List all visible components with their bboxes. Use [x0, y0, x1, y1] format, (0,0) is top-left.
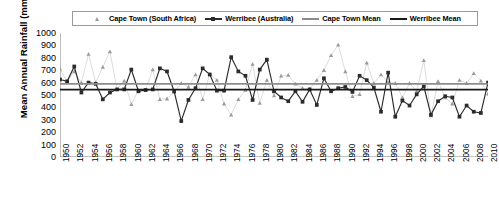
legend-label-werribee: Werribee (Australia) — [225, 15, 293, 22]
x-tick-label: 1978 — [263, 144, 271, 162]
x-tick-label: 1970 — [206, 144, 214, 162]
y-tick-label: 800 — [22, 53, 56, 62]
x-tick-label: 1980 — [277, 144, 285, 162]
y-tick-label: 600 — [22, 78, 56, 87]
square-marker-icon — [205, 15, 222, 23]
x-tick-label: 1994 — [377, 144, 385, 162]
y-tick-label: 500 — [22, 91, 56, 100]
line-swatch-icon — [302, 15, 319, 23]
x-tick-label: 1982 — [291, 144, 299, 162]
chart-legend: Cape Town (South Africa) Werribee (Austr… — [72, 11, 478, 26]
x-tick-label: 1974 — [234, 144, 242, 162]
x-tick-label: 1986 — [320, 144, 328, 162]
x-tick-label: 1998 — [406, 144, 414, 162]
legend-label-cape-town: Cape Town (South Africa) — [109, 15, 196, 22]
y-tick-label: 1000 — [22, 29, 56, 38]
x-axis-tick-labels: 1950195219541956195819601962196419661968… — [60, 160, 488, 202]
x-tick-label: 2008 — [477, 144, 485, 162]
x-tick-label: 1962 — [149, 144, 157, 162]
legend-label-cape-town-mean: Cape Town Mean — [322, 15, 380, 22]
x-tick-label: 1956 — [106, 144, 114, 162]
x-tick-label: 1950 — [63, 144, 71, 162]
x-tick-label: 2010 — [491, 144, 499, 162]
x-tick-label: 1996 — [391, 144, 399, 162]
y-axis-tick-labels: 10009008007006005004003002001000 — [22, 0, 56, 202]
y-tick-label: 0 — [22, 153, 56, 162]
x-tick-label: 1972 — [220, 144, 228, 162]
x-tick-label: 1954 — [92, 144, 100, 162]
x-tick-label: 1992 — [363, 144, 371, 162]
x-tick-label: 1988 — [334, 144, 342, 162]
x-tick-label: 1958 — [120, 144, 128, 162]
legend-item-cape-town: Cape Town (South Africa) — [89, 15, 196, 23]
x-tick-label: 1968 — [192, 144, 200, 162]
y-tick-label: 700 — [22, 66, 56, 75]
y-tick-label: 200 — [22, 128, 56, 137]
line-swatch-icon — [390, 15, 407, 23]
y-tick-label: 100 — [22, 140, 56, 149]
legend-item-werribee-mean: Werribee Mean — [390, 15, 461, 23]
x-tick-label: 1966 — [177, 144, 185, 162]
x-tick-label: 1964 — [163, 144, 171, 162]
x-tick-label: 2006 — [463, 144, 471, 162]
x-tick-label: 2000 — [420, 144, 428, 162]
x-tick-label: 1976 — [249, 144, 257, 162]
y-tick-label: 300 — [22, 115, 56, 124]
legend-item-cape-town-mean: Cape Town Mean — [302, 15, 380, 23]
y-tick-label: 400 — [22, 103, 56, 112]
x-tick-label: 1952 — [77, 144, 85, 162]
triangle-marker-icon — [89, 15, 106, 23]
x-tick-label: 1960 — [135, 144, 143, 162]
x-tick-label: 1984 — [306, 144, 314, 162]
y-tick-label: 900 — [22, 41, 56, 50]
legend-item-werribee: Werribee (Australia) — [205, 15, 293, 23]
plot-area — [60, 33, 488, 157]
x-tick-label: 1990 — [349, 144, 357, 162]
x-tick-label: 2002 — [434, 144, 442, 162]
x-tick-label: 2004 — [448, 144, 456, 162]
legend-label-werribee-mean: Werribee Mean — [410, 15, 461, 22]
